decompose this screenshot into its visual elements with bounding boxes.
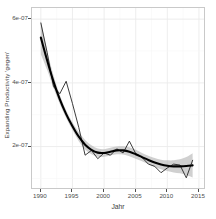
x-tick-label: 2005 xyxy=(128,193,142,199)
x-tick-mark xyxy=(135,189,136,192)
plot-panel xyxy=(31,7,205,189)
chart-figure: Expanding Productivity 'gegen' 2e-074e-0… xyxy=(0,0,216,219)
y-axis-ticks: 2e-074e-076e-07 xyxy=(0,0,28,219)
x-tick-mark xyxy=(40,189,41,192)
x-tick-mark xyxy=(71,189,72,192)
x-tick-label: 1995 xyxy=(65,193,79,199)
x-tick-mark xyxy=(198,189,199,192)
confidence-band xyxy=(41,21,193,178)
plot-svg xyxy=(32,8,204,188)
y-tick-label: 2e-07 xyxy=(2,142,28,148)
x-tick-label: 2010 xyxy=(159,193,173,199)
x-tick-label: 2000 xyxy=(96,193,110,199)
x-tick-label: 1990 xyxy=(33,193,47,199)
x-tick-mark xyxy=(166,189,167,192)
observed-series-line xyxy=(41,23,193,178)
x-tick-mark xyxy=(103,189,104,192)
x-axis-ticks: 199019952000200520102015 xyxy=(0,189,216,203)
y-tick-label: 6e-07 xyxy=(2,15,28,21)
y-tick-label: 4e-07 xyxy=(2,79,28,85)
x-tick-label: 2015 xyxy=(191,193,205,199)
x-axis-title: Jahr xyxy=(31,203,205,210)
